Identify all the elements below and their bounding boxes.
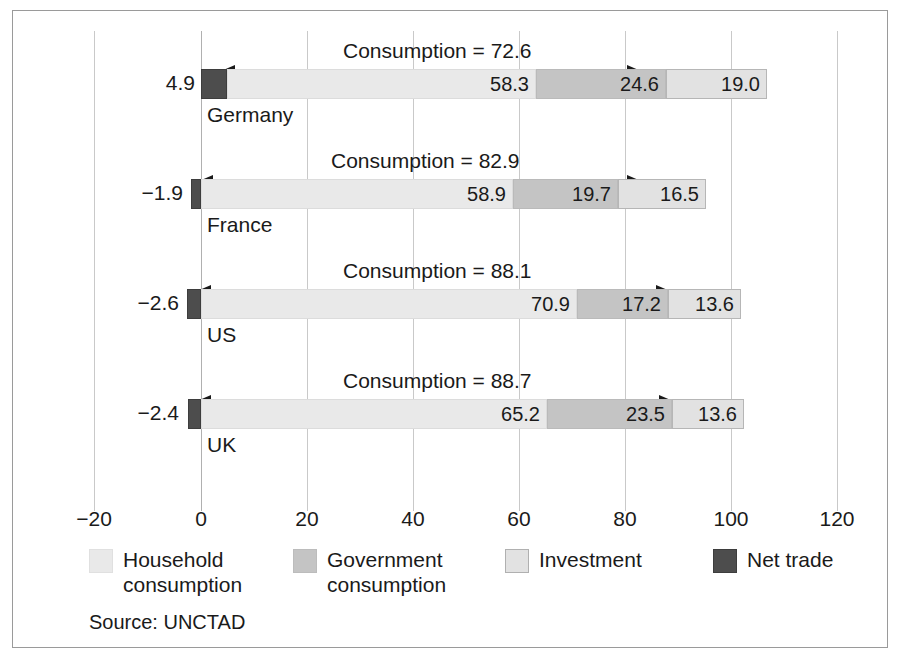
legend-item-investment[interactable]: Investment: [505, 547, 642, 573]
bar-row-uk: Consumption = 88.7 −2.4 65.2 23.5 13.6 U: [13, 371, 889, 471]
country-label-germany: Germany: [207, 103, 293, 127]
legend-label-government: Government consumption: [327, 547, 446, 597]
x-tick-label-0: 0: [161, 507, 241, 531]
segment-label-household-france: 58.9: [467, 183, 512, 206]
bar-row-us: Consumption = 88.1 −2.6 70.9 17.2 13.6 U: [13, 261, 889, 361]
legend-swatch-household-icon: [89, 549, 113, 573]
segment-net-trade-uk: [188, 399, 201, 429]
segment-investment-us: 13.6: [668, 289, 741, 319]
x-tick-label-80: 80: [585, 507, 665, 531]
segment-label-government-us: 17.2: [622, 293, 667, 316]
x-tick-label-20: 20: [267, 507, 347, 531]
legend-item-net-trade[interactable]: Net trade: [713, 547, 833, 573]
segment-label-investment-uk: 13.6: [698, 403, 743, 426]
bar-row-germany: Consumption = 72.6 4.9 58.3 24.6 19.0 Ge: [13, 41, 889, 141]
legend-item-household[interactable]: Household consumption: [89, 547, 242, 597]
x-tick-label-120: 120: [797, 507, 877, 531]
net-trade-value-germany: 4.9: [133, 71, 195, 95]
legend-item-government[interactable]: Government consumption: [293, 547, 446, 597]
segment-household-germany: 58.3: [227, 69, 536, 99]
segment-label-government-france: 19.7: [572, 183, 617, 206]
legend-swatch-government-icon: [293, 549, 317, 573]
segment-investment-france: 16.5: [618, 179, 706, 209]
country-label-uk: UK: [207, 433, 236, 457]
stacked-bar-france: 58.9 19.7 16.5: [191, 179, 706, 209]
segment-label-household-us: 70.9: [531, 293, 576, 316]
consumption-annotation-us: Consumption = 88.1: [343, 259, 532, 283]
net-trade-value-us: −2.6: [111, 291, 179, 315]
chart-frame: Consumption = 72.6 4.9 58.3 24.6 19.0 Ge: [12, 10, 888, 648]
plot-area: Consumption = 72.6 4.9 58.3 24.6 19.0 Ge: [13, 11, 889, 649]
segment-government-france: 19.7: [513, 179, 618, 209]
segment-net-trade-us: [187, 289, 201, 319]
bar-row-france: Consumption = 82.9 −1.9 58.9 19.7 16.5 F: [13, 151, 889, 251]
segment-government-uk: 23.5: [547, 399, 672, 429]
segment-label-government-uk: 23.5: [626, 403, 671, 426]
segment-label-investment-france: 16.5: [660, 183, 705, 206]
segment-investment-germany: 19.0: [666, 69, 767, 99]
stacked-bar-us: 70.9 17.2 13.6: [187, 289, 741, 319]
consumption-annotation-uk: Consumption = 88.7: [343, 369, 532, 393]
stacked-bar-uk: 65.2 23.5 13.6: [188, 399, 744, 429]
segment-label-investment-us: 13.6: [695, 293, 740, 316]
stacked-bar-germany: 58.3 24.6 19.0: [201, 69, 767, 99]
segment-household-us: 70.9: [201, 289, 577, 319]
net-trade-value-uk: −2.4: [111, 401, 179, 425]
segment-net-trade-france: [191, 179, 201, 209]
country-label-france: France: [207, 213, 272, 237]
legend-swatch-investment-icon: [505, 549, 529, 573]
segment-household-uk: 65.2: [201, 399, 547, 429]
segment-label-household-uk: 65.2: [501, 403, 546, 426]
segment-label-household-germany: 58.3: [490, 73, 535, 96]
chart-legend: Household consumption Government consump…: [13, 547, 889, 607]
consumption-annotation-germany: Consumption = 72.6: [343, 39, 532, 63]
segment-net-trade-germany: [201, 69, 227, 99]
segment-investment-uk: 13.6: [672, 399, 744, 429]
consumption-annotation-france: Consumption = 82.9: [331, 149, 520, 173]
segment-label-government-germany: 24.6: [620, 73, 665, 96]
segment-household-france: 58.9: [201, 179, 513, 209]
x-tick-label--20: −20: [54, 507, 134, 531]
legend-swatch-net-trade-icon: [713, 549, 737, 573]
legend-label-investment: Investment: [539, 547, 642, 572]
segment-government-us: 17.2: [577, 289, 668, 319]
x-tick-label-60: 60: [479, 507, 559, 531]
country-label-us: US: [207, 323, 236, 347]
net-trade-value-france: −1.9: [115, 181, 183, 205]
source-note: Source: UNCTAD: [89, 611, 245, 634]
x-tick-label-100: 100: [691, 507, 771, 531]
x-tick-label-40: 40: [373, 507, 453, 531]
legend-label-household: Household consumption: [123, 547, 242, 597]
segment-government-germany: 24.6: [536, 69, 666, 99]
legend-label-net-trade: Net trade: [747, 547, 833, 572]
segment-label-investment-germany: 19.0: [721, 73, 766, 96]
